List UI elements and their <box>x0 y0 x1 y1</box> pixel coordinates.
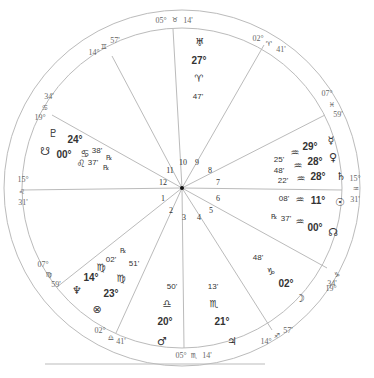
gemini-icon: ♊ <box>101 44 107 51</box>
aquarius-icon: ♒ <box>296 217 305 227</box>
cusp-line-1 <box>22 188 182 190</box>
house-number-10: 10 <box>179 159 187 167</box>
chiron-minute: 51' <box>129 260 139 268</box>
libra-icon: ♎ <box>163 299 172 309</box>
cusp-line-7 <box>182 188 342 190</box>
pluto-icon: ♇ <box>48 128 58 139</box>
venus-degree: 28° <box>307 157 322 167</box>
uranus-minute: 47' <box>193 93 203 101</box>
taurus-icon: ♉ <box>172 17 178 24</box>
center-dot <box>180 186 184 190</box>
aries-icon: ♈ <box>195 74 204 84</box>
aries-icon: ♈ <box>266 41 272 48</box>
part-of-fortune-icon: ⊗ <box>92 304 101 315</box>
cusp-9-minute: 41' <box>276 46 285 54</box>
scorpio-icon: ♏ <box>191 353 197 360</box>
leo-icon: ♌ <box>19 189 25 196</box>
cusp-2-minute: 59' <box>51 281 60 289</box>
chiron-degree: 23° <box>103 289 118 299</box>
aquarius-icon: ♒ <box>291 148 300 158</box>
house-number-2: 2 <box>169 207 173 215</box>
cusp-3-degree: 02° <box>94 327 105 335</box>
venus-minute: 48' <box>274 167 284 175</box>
mars-minute: 50' <box>167 283 177 291</box>
cusp-5-minute: 57' <box>283 327 292 335</box>
saturn-degree: 28° <box>310 172 325 182</box>
mercury-icon: ☿ <box>328 135 335 146</box>
cusp-4-minute: 14' <box>202 352 211 360</box>
cusp-2-degree: 07° <box>37 261 48 269</box>
uranus-icon: ♅ <box>195 37 205 48</box>
natal-chart-wheel <box>0 0 374 378</box>
house-number-9: 9 <box>195 159 199 167</box>
cusp-1-minute: 31' <box>18 199 27 207</box>
cusp-9-degree: 02° <box>252 35 263 43</box>
cusp-6-degree: 19° <box>325 285 336 293</box>
north-node-retrograde-icon: ℞ <box>271 213 277 220</box>
sagittarius-icon: ♐ <box>274 333 280 340</box>
pisces-icon: ♓ <box>329 102 335 109</box>
north-node-icon: ☊ <box>328 227 338 238</box>
south-node-retrograde-icon: ℞ <box>103 164 109 171</box>
pluto-degree: 24° <box>67 135 82 145</box>
cusp-11-degree: 14° <box>88 49 99 57</box>
leo-icon: ♌ <box>77 159 86 169</box>
cusp-8-minute: 59' <box>333 111 342 119</box>
cusp-10-degree: 05° <box>155 17 166 25</box>
neptune-icon: ♆ <box>72 285 82 296</box>
moon-degree: 02° <box>278 279 293 289</box>
uranus-degree: 27° <box>191 56 206 66</box>
libra-icon: ♎ <box>108 335 114 342</box>
house-number-4: 4 <box>197 214 201 222</box>
south-node-minute: 37' <box>88 159 98 167</box>
cusp-line-4 <box>182 188 184 348</box>
mercury-minute: 25' <box>274 156 284 164</box>
aquarius-icon: ♒ <box>296 195 305 205</box>
cusp-12-minute: 34' <box>44 93 53 101</box>
mars-degree: 20° <box>157 317 172 327</box>
sun-minute: 08' <box>279 195 289 203</box>
scorpio-icon: ♏ <box>210 299 219 309</box>
moon-minute: 48' <box>253 254 263 262</box>
cusp-10-minute: 14' <box>183 17 192 25</box>
virgo-retrograde-minute: 02' <box>106 256 116 264</box>
mercury-degree: 29° <box>302 142 317 152</box>
cusp-3-minute: 41' <box>116 338 125 346</box>
cusp-12-degree: 19° <box>34 114 45 122</box>
house-number-6: 6 <box>216 195 220 203</box>
cusp-1-degree: 15° <box>17 176 28 184</box>
mars-icon: ♂ <box>157 336 167 347</box>
house-number-8: 8 <box>208 167 212 175</box>
virgo-retrograde-icon: ℞ <box>120 247 126 254</box>
cusp-4-degree: 05° <box>175 352 186 360</box>
aquarius-icon: ♒ <box>353 186 359 193</box>
jupiter-minute: 13' <box>208 283 218 291</box>
cusp-8-degree: 07° <box>321 90 332 98</box>
jupiter-degree: 21° <box>214 317 229 327</box>
pluto-retrograde-icon: ℞ <box>106 154 112 161</box>
pluto-minute: 38' <box>92 147 102 155</box>
house-number-5: 5 <box>209 207 213 215</box>
house-number-3: 3 <box>182 214 186 222</box>
aquarius-icon: ♒ <box>297 174 306 184</box>
saturn-icon: ♄ <box>336 171 346 182</box>
cancer-icon: ♋ <box>42 105 48 112</box>
venus-icon: ♀ <box>329 152 337 163</box>
moon-icon: ☽ <box>295 293 305 304</box>
sun-icon: ☉ <box>335 197 345 208</box>
cusp-7-degree: 15° <box>349 175 360 183</box>
north-node-minute: 37' <box>281 215 291 223</box>
virgo-icon: ♍ <box>117 274 126 284</box>
south-node-icon: ☋ <box>40 146 50 157</box>
aquarius-icon: ♒ <box>294 161 303 171</box>
north-node-degree: 00° <box>307 223 322 233</box>
neptune-degree: 14° <box>83 273 98 283</box>
jupiter-icon: ♃ <box>227 336 237 347</box>
south-node-degree: 00° <box>56 150 71 160</box>
house-number-7: 7 <box>216 179 220 187</box>
sun-degree: 11° <box>311 196 326 206</box>
house-number-11: 11 <box>166 167 174 175</box>
saturn-minute: 22' <box>278 177 288 185</box>
cusp-5-degree: 14° <box>260 338 271 346</box>
cusp-7-minute: 31' <box>350 196 359 204</box>
